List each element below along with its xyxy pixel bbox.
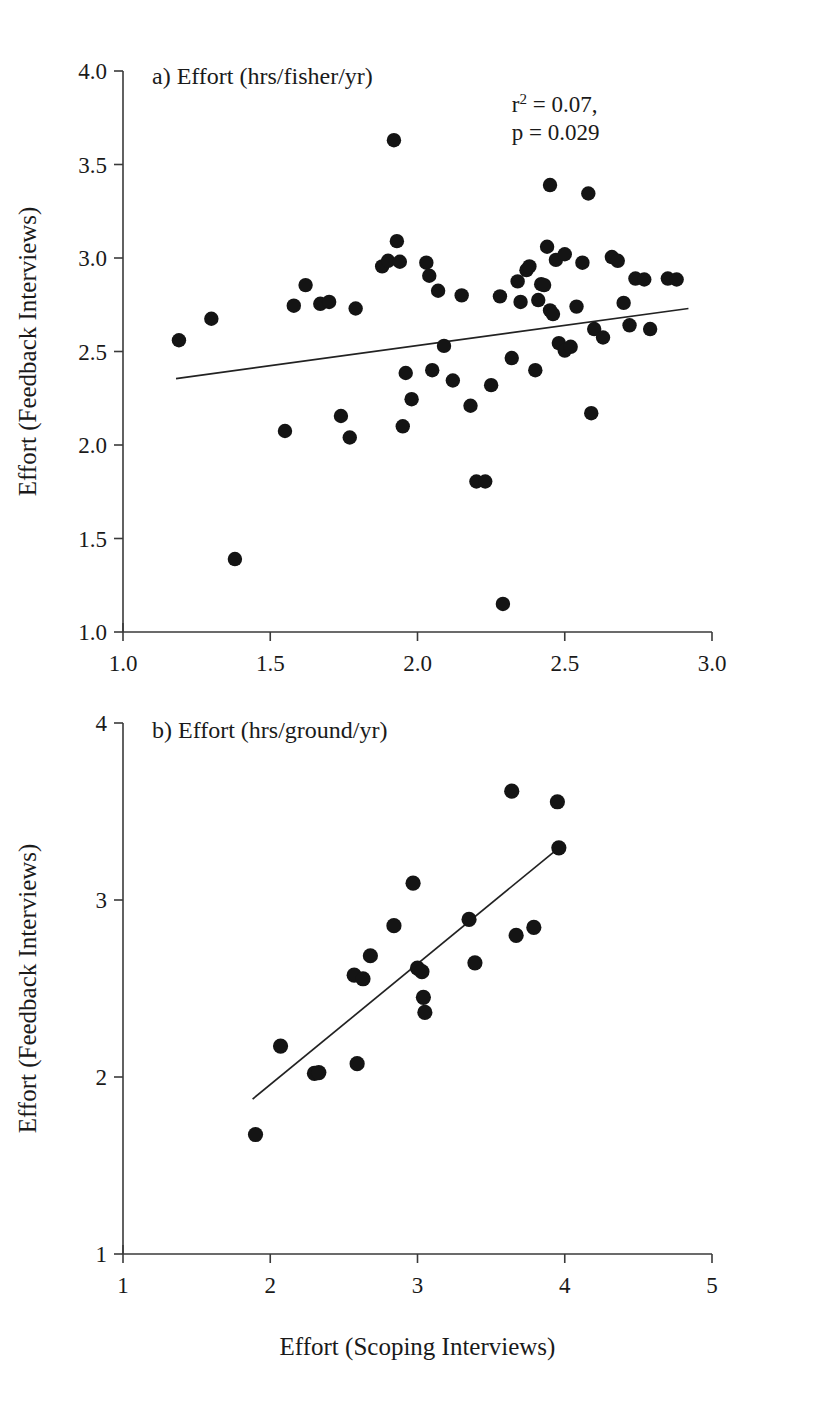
panel-a-y-axis-title: Effort (Feedback Interviews) xyxy=(14,207,42,497)
data-point xyxy=(248,1127,263,1142)
data-point xyxy=(386,918,401,933)
data-point xyxy=(522,259,536,273)
panel-b-y-axis-title: Effort (Feedback Interviews) xyxy=(14,844,42,1134)
panel-a-y-tick-label: 1.0 xyxy=(78,620,107,645)
panel-a-y-tick-label: 2.0 xyxy=(78,433,107,458)
data-point xyxy=(569,299,583,313)
data-point xyxy=(513,295,527,309)
panel-b-y-tick-label: 3 xyxy=(96,888,108,913)
data-point xyxy=(463,399,477,413)
data-point xyxy=(509,928,524,943)
data-point xyxy=(273,1038,288,1053)
panel-a-x-tick-label: 1.0 xyxy=(109,651,138,676)
data-point xyxy=(355,971,370,986)
data-point xyxy=(287,298,301,312)
data-point xyxy=(334,409,348,423)
data-point xyxy=(584,406,598,420)
panel-a-x-tick-label: 2.5 xyxy=(550,651,579,676)
panel-a-title: a) Effort (hrs/fisher/yr) xyxy=(152,63,373,89)
data-point xyxy=(437,339,451,353)
data-point xyxy=(637,272,651,286)
panel-b-title: b) Effort (hrs/ground/yr) xyxy=(152,717,388,743)
data-point xyxy=(417,1005,432,1020)
data-point xyxy=(454,288,468,302)
data-point xyxy=(575,255,589,269)
data-point xyxy=(669,272,683,286)
data-point xyxy=(363,948,378,963)
panel-b-y-tick-label: 4 xyxy=(96,711,108,736)
panel-a-svg: 1.01.52.02.53.03.54.01.01.52.02.53.0a) E… xyxy=(0,0,823,690)
data-point xyxy=(172,333,186,347)
data-point xyxy=(414,964,429,979)
data-point xyxy=(643,322,657,336)
panel-b-y-tick-label: 1 xyxy=(96,1242,108,1267)
data-point xyxy=(396,419,410,433)
data-point xyxy=(510,274,524,288)
data-point xyxy=(531,293,545,307)
panel-a-y-tick-label: 3.0 xyxy=(78,246,107,271)
panel-a-y-tick-label: 4.0 xyxy=(78,59,107,84)
data-point xyxy=(540,240,554,254)
data-point xyxy=(348,301,362,315)
panel-a-p-annotation: p = 0.029 xyxy=(512,120,600,145)
data-point xyxy=(387,133,401,147)
data-point xyxy=(504,784,519,799)
panel-a-scatter: 1.01.52.02.53.03.54.01.01.52.02.53.0a) E… xyxy=(0,0,823,690)
data-point xyxy=(622,318,636,332)
data-point xyxy=(493,289,507,303)
panel-a-y-tick-label: 2.5 xyxy=(78,340,107,365)
panel-a-y-tick-label: 1.5 xyxy=(78,527,107,552)
data-point xyxy=(311,1065,326,1080)
data-point xyxy=(343,430,357,444)
data-point xyxy=(551,840,566,855)
data-point xyxy=(322,295,336,309)
data-point xyxy=(596,330,610,344)
data-point xyxy=(581,186,595,200)
panel-b-x-tick-label: 4 xyxy=(559,1273,571,1298)
panel-b-trendline xyxy=(253,848,559,1099)
data-point xyxy=(543,178,557,192)
data-point xyxy=(399,366,413,380)
figure-container: 1.01.52.02.53.03.54.01.01.52.02.53.0a) E… xyxy=(0,0,823,1423)
data-point xyxy=(467,955,482,970)
shared-x-axis-title: Effort (Scoping Interviews) xyxy=(280,1333,556,1361)
data-point xyxy=(478,474,492,488)
panel-b-y-tick-label: 2 xyxy=(96,1065,108,1090)
data-point xyxy=(558,247,572,261)
data-point xyxy=(419,255,433,269)
data-point xyxy=(350,1056,365,1071)
data-point xyxy=(550,794,565,809)
panel-b-svg: 123412345b) Effort (hrs/ground/yr)Effort… xyxy=(0,690,823,1423)
panel-b-scatter: 123412345b) Effort (hrs/ground/yr)Effort… xyxy=(0,690,823,1423)
data-point xyxy=(461,912,476,927)
panel-b-points xyxy=(248,784,567,1143)
panel-a-x-tick-label: 1.5 xyxy=(256,651,285,676)
panel-b-x-tick-label: 2 xyxy=(265,1273,277,1298)
data-point xyxy=(422,269,436,283)
panel-a-x-tick-label: 3.0 xyxy=(698,651,727,676)
data-point xyxy=(298,278,312,292)
data-point xyxy=(416,990,431,1005)
panel-b-x-tick-label: 3 xyxy=(412,1273,424,1298)
panel-a-r2-annotation: r2 = 0.07, xyxy=(512,91,598,117)
data-point xyxy=(616,296,630,310)
data-point xyxy=(563,340,577,354)
data-point xyxy=(528,363,542,377)
panel-a-y-tick-label: 3.5 xyxy=(78,153,107,178)
panel-a-x-tick-label: 2.0 xyxy=(403,651,432,676)
data-point xyxy=(484,378,498,392)
data-point xyxy=(446,373,460,387)
data-point xyxy=(390,234,404,248)
panel-a-points xyxy=(172,133,684,611)
data-point xyxy=(425,363,439,377)
data-point xyxy=(404,392,418,406)
data-point xyxy=(496,597,510,611)
data-point xyxy=(405,876,420,891)
data-point xyxy=(228,552,242,566)
data-point xyxy=(611,254,625,268)
data-point xyxy=(278,424,292,438)
panel-b-x-tick-label: 1 xyxy=(117,1273,129,1298)
data-point xyxy=(393,255,407,269)
data-point xyxy=(204,312,218,326)
data-point xyxy=(526,920,541,935)
